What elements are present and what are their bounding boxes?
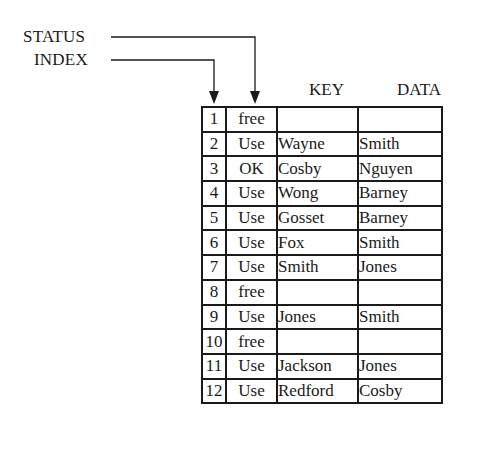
index-cell: 10	[202, 329, 226, 354]
status-cell: Use	[226, 206, 277, 231]
key-cell: Smith	[277, 255, 358, 280]
table-row: 2 Use Wayne Smith	[202, 132, 442, 157]
status-arrowhead-icon	[250, 91, 260, 104]
status-cell: Use	[226, 132, 277, 157]
status-cell: free	[226, 280, 277, 305]
data-cell: Smith	[358, 230, 442, 255]
data-cell	[358, 280, 442, 305]
table-row: 1 free	[202, 107, 442, 132]
key-cell: Wong	[277, 181, 358, 206]
status-cell: Use	[226, 255, 277, 280]
table-row: 3 OK Cosby Nguyen	[202, 156, 442, 181]
status-cell: Use	[226, 181, 277, 206]
index-cell: 9	[202, 305, 226, 330]
data-cell: Nguyen	[358, 156, 442, 181]
key-cell: Wayne	[277, 132, 358, 157]
data-cell: Smith	[358, 305, 442, 330]
index-arrowhead-icon	[209, 91, 219, 104]
hash-table: 1 free 2 Use Wayne Smith 3 OK Cosby Nguy…	[201, 106, 443, 404]
status-cell: free	[226, 107, 277, 132]
data-cell: Barney	[358, 181, 442, 206]
key-cell: Fox	[277, 230, 358, 255]
index-cell: 2	[202, 132, 226, 157]
table-row: 10 free	[202, 329, 442, 354]
data-cell	[358, 329, 442, 354]
table-row: 9 Use Jones Smith	[202, 305, 442, 330]
column-header-data: DATA	[373, 80, 465, 100]
data-cell: Jones	[358, 354, 442, 379]
index-cell: 12	[202, 379, 226, 404]
index-cell: 4	[202, 181, 226, 206]
data-cell: Jones	[358, 255, 442, 280]
index-cell: 11	[202, 354, 226, 379]
index-arrow-icon	[111, 60, 214, 95]
key-cell: Cosby	[277, 156, 358, 181]
index-cell: 1	[202, 107, 226, 132]
table-row: 7 Use Smith Jones	[202, 255, 442, 280]
table-row: 8 free	[202, 280, 442, 305]
table-row: 11 Use Jackson Jones	[202, 354, 442, 379]
status-cell: Use	[226, 379, 277, 404]
table-row: 5 Use Gosset Barney	[202, 206, 442, 231]
table-row: 6 Use Fox Smith	[202, 230, 442, 255]
key-cell: Jones	[277, 305, 358, 330]
key-cell: Gosset	[277, 206, 358, 231]
key-cell	[277, 329, 358, 354]
index-cell: 6	[202, 230, 226, 255]
data-cell: Cosby	[358, 379, 442, 404]
status-arrow-icon	[111, 37, 255, 95]
status-cell: OK	[226, 156, 277, 181]
table-row: 4 Use Wong Barney	[202, 181, 442, 206]
column-header-key: KEY	[280, 80, 373, 100]
data-cell: Barney	[358, 206, 442, 231]
index-cell: 7	[202, 255, 226, 280]
status-cell: Use	[226, 230, 277, 255]
status-cell: free	[226, 329, 277, 354]
index-cell: 5	[202, 206, 226, 231]
data-cell	[358, 107, 442, 132]
key-cell	[277, 107, 358, 132]
index-cell: 8	[202, 280, 226, 305]
key-cell	[277, 280, 358, 305]
data-cell: Smith	[358, 132, 442, 157]
key-cell: Redford	[277, 379, 358, 404]
table-row: 12 Use Redford Cosby	[202, 379, 442, 404]
status-cell: Use	[226, 305, 277, 330]
index-cell: 3	[202, 156, 226, 181]
status-cell: Use	[226, 354, 277, 379]
key-cell: Jackson	[277, 354, 358, 379]
